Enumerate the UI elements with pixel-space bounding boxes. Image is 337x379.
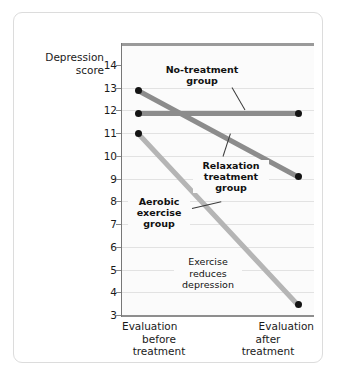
data-point-marker [135, 130, 142, 137]
chart-card: Depression score 14131211109876543 No-tr… [13, 12, 323, 363]
y-axis-tick-mark [116, 110, 121, 111]
annotation-line: Exercise [174, 256, 242, 268]
x-axis-label-line: after [222, 333, 314, 346]
y-axis-tick-mark [116, 65, 121, 66]
annotation-aerobic: Aerobic exercise group [128, 196, 190, 229]
y-axis-tick-label: 14 [91, 60, 117, 70]
annotation-line: treatment [193, 171, 269, 182]
annotation-line: exercise [128, 207, 190, 218]
annotation-line: group [128, 218, 190, 229]
y-axis-tick-mark [116, 88, 121, 89]
x-axis-label-after: Evaluation after treatment [222, 320, 314, 358]
data-point-marker [135, 87, 142, 94]
y-axis-tick-label: 13 [91, 83, 117, 93]
annotation-exercise-note: Exercise reduces depression [174, 256, 242, 291]
annotation-line: group [158, 75, 246, 86]
y-axis-tick-label: 3 [91, 310, 117, 320]
plot-top-rule [122, 43, 314, 46]
y-axis-tick-mark [116, 315, 121, 316]
data-point-marker [295, 301, 302, 308]
gridline [122, 156, 314, 157]
y-axis-tick-label: 9 [91, 174, 117, 184]
annotation-relaxation: Relaxation treatment group [193, 160, 269, 193]
plot-area: No-treatment group Relaxation treatment … [122, 43, 314, 317]
y-axis-tick-label: 5 [91, 265, 117, 275]
annotation-line: No-treatment [158, 64, 246, 75]
x-axis-label-line: treatment [122, 345, 196, 358]
y-axis-tick-label: 11 [91, 128, 117, 138]
annotation-line: Relaxation [193, 160, 269, 171]
gridline [122, 88, 314, 89]
x-axis-label-line: Evaluation [222, 320, 314, 333]
y-axis-tick-label: 12 [91, 105, 117, 115]
y-axis-tick-mark [116, 201, 121, 202]
annotation-no-treatment: No-treatment group [158, 64, 246, 86]
data-point-marker [295, 173, 302, 180]
y-axis-tick-label: 8 [91, 196, 117, 206]
y-axis-tick-mark [116, 179, 121, 180]
y-axis-tick-label: 6 [91, 242, 117, 252]
y-axis-tick-mark [116, 224, 121, 225]
gridline [122, 247, 314, 248]
data-point-marker [295, 110, 302, 117]
y-axis-tick-mark [116, 247, 121, 248]
annotation-line: Aerobic [128, 196, 190, 207]
x-axis-label-line: before [122, 333, 196, 346]
annotation-line: group [193, 182, 269, 193]
y-axis-tick-labels: 14131211109876543 [89, 13, 117, 362]
series-line-0 [138, 111, 298, 116]
annotation-line: reduces [174, 268, 242, 280]
leader-line-no-treatment [232, 87, 246, 110]
y-axis-tick-label: 10 [91, 151, 117, 161]
y-axis-tick-label: 7 [91, 219, 117, 229]
y-axis-tick-mark [116, 270, 121, 271]
x-axis-label-line: Evaluation [122, 320, 214, 333]
y-axis-tick-mark [116, 156, 121, 157]
annotation-line: depression [174, 279, 242, 291]
data-point-marker [135, 110, 142, 117]
y-axis-tick-mark [116, 133, 121, 134]
plot-bottom-rule [122, 315, 314, 317]
y-axis-tick-label: 4 [91, 287, 117, 297]
y-axis-tick-mark [116, 292, 121, 293]
x-axis-label-line: treatment [222, 345, 314, 358]
x-axis-label-before: Evaluation before treatment [122, 320, 214, 358]
